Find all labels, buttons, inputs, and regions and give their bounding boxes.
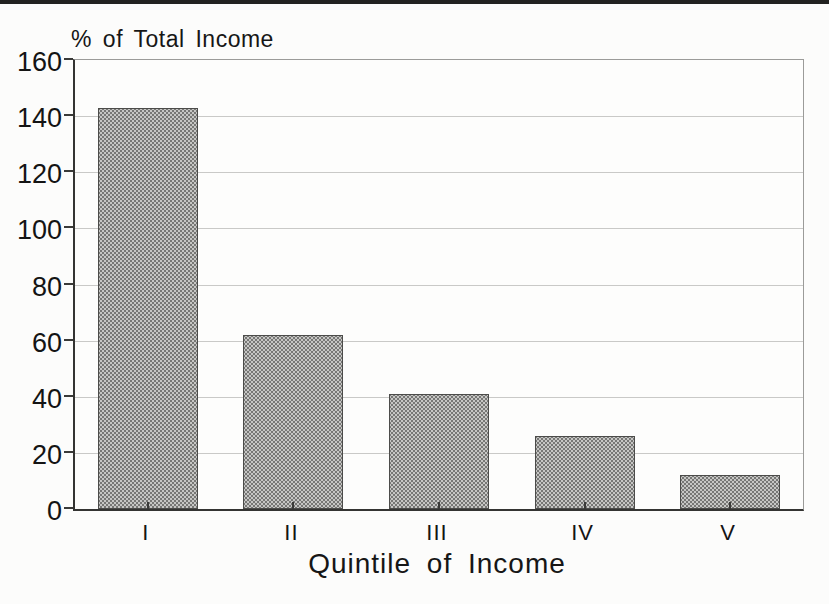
- y-tick-label-140: 140: [10, 103, 62, 134]
- y-axis-title: % of Total Income: [71, 26, 274, 53]
- bar-quintile-III: [389, 394, 489, 509]
- x-category-label-II: II: [246, 520, 336, 546]
- x-tick-II: [292, 502, 294, 509]
- y-tick-label-20: 20: [10, 439, 62, 470]
- x-tick-III: [438, 502, 440, 509]
- bar-quintile-I: [98, 108, 198, 509]
- y-tick-mark-20: [64, 451, 73, 453]
- bar-quintile-II: [243, 335, 343, 509]
- x-axis-title: Quintile of Income: [73, 548, 801, 580]
- y-tick-mark-140: [64, 114, 73, 116]
- y-tick-mark-100: [64, 226, 73, 228]
- y-tick-label-100: 100: [10, 215, 62, 246]
- y-tick-mark-60: [64, 339, 73, 341]
- x-category-label-III: III: [392, 520, 482, 546]
- y-tick-mark-160: [64, 58, 73, 60]
- x-category-label-V: V: [683, 520, 773, 546]
- x-tick-I: [147, 502, 149, 509]
- scanned-page: % of Total Income 020406080100120140160 …: [0, 0, 829, 604]
- y-tick-label-40: 40: [10, 383, 62, 414]
- bar-quintile-IV: [535, 436, 635, 509]
- y-tick-label-120: 120: [10, 159, 62, 190]
- y-tick-mark-40: [64, 395, 73, 397]
- y-tick-mark-80: [64, 283, 73, 285]
- y-tick-label-60: 60: [10, 327, 62, 358]
- x-tick-IV: [584, 502, 586, 509]
- y-tick-mark-120: [64, 170, 73, 172]
- x-tick-V: [729, 502, 731, 509]
- y-tick-label-80: 80: [10, 271, 62, 302]
- x-category-label-I: I: [101, 520, 191, 546]
- y-tick-label-0: 0: [10, 496, 62, 527]
- page-top-rule: [0, 0, 829, 4]
- y-tick-mark-0: [64, 507, 73, 509]
- x-category-label-IV: IV: [538, 520, 628, 546]
- plot-area: [73, 59, 804, 511]
- y-tick-label-160: 160: [10, 47, 62, 78]
